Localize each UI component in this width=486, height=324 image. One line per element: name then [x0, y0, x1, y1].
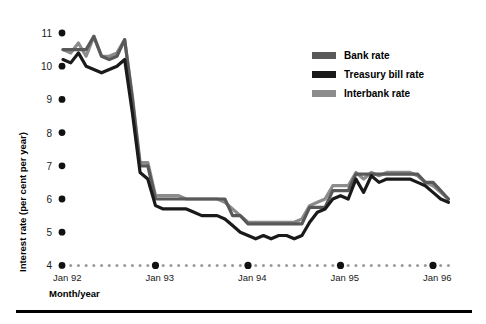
x-tick-dot-major [152, 262, 159, 269]
series-lines-group [63, 36, 448, 239]
y-tick-dot [59, 129, 66, 136]
x-tick-dot-minor [131, 264, 134, 267]
x-tick-dot-minor [354, 264, 357, 267]
y-axis-tick-markers [59, 30, 66, 269]
x-tick-dot-minor [231, 264, 234, 267]
x-tick-dot-minor [408, 264, 411, 267]
x-tick-dot-minor [439, 264, 442, 267]
x-tick-dot-minor [378, 264, 381, 267]
y-tick-dot [59, 96, 66, 103]
x-tick-dot-minor [262, 264, 265, 267]
bottom-divider-rule [16, 310, 472, 313]
x-tick-dot-minor [146, 264, 149, 267]
legend-swatch [312, 52, 336, 59]
x-tick-dot-minor [185, 264, 188, 267]
x-tick-dot-minor [331, 264, 334, 267]
y-tick-dot [59, 30, 66, 37]
x-tick-dot-minor [69, 264, 72, 267]
x-tick-dot-minor [193, 264, 196, 267]
y-tick-label: 5 [46, 227, 52, 238]
x-tick-dot-minor [308, 264, 311, 267]
x-tick-dot-minor [162, 264, 165, 267]
x-tick-dot-minor [100, 264, 103, 267]
x-tick-dot-minor [216, 264, 219, 267]
x-tick-label: Jan 94 [238, 272, 267, 283]
y-axis-tick-labels: 1110987654 [41, 28, 53, 271]
x-tick-dot-minor [277, 264, 280, 267]
x-tick-dot-minor [370, 264, 373, 267]
x-tick-dot-minor [239, 264, 242, 267]
y-tick-label: 9 [46, 94, 52, 105]
y-tick-label: 11 [42, 28, 53, 39]
chart-legend: Bank rateTreasury bill rateInterbank rat… [312, 50, 424, 99]
x-tick-dot-minor [169, 264, 172, 267]
x-axis-tick-markers [69, 262, 450, 269]
legend-swatch [312, 71, 336, 78]
y-tick-label: 7 [46, 161, 52, 172]
chart-figure: 1110987654 Jan 92Jan 93Jan 94Jan 95Jan 9… [0, 0, 486, 324]
x-tick-dot-minor [200, 264, 203, 267]
x-tick-dot-minor [347, 264, 350, 267]
y-tick-label: 6 [46, 194, 52, 205]
x-tick-dot-minor [385, 264, 388, 267]
x-tick-dot-minor [139, 264, 142, 267]
x-tick-label: Jan 95 [331, 272, 360, 283]
y-tick-dot [59, 162, 66, 169]
y-tick-dot [59, 196, 66, 203]
x-tick-dot-minor [177, 264, 180, 267]
x-tick-dot-minor [85, 264, 88, 267]
x-tick-dot-minor [401, 264, 404, 267]
x-tick-dot-minor [416, 264, 419, 267]
x-tick-dot-minor [393, 264, 396, 267]
x-tick-dot-minor [254, 264, 257, 267]
x-tick-dot-major [429, 262, 436, 269]
y-tick-dot [59, 229, 66, 236]
legend-label: Bank rate [344, 50, 390, 61]
y-tick-dot [59, 63, 66, 70]
x-tick-dot-minor [123, 264, 126, 267]
x-tick-dot-minor [115, 264, 118, 267]
x-tick-label: Jan 96 [423, 272, 452, 283]
x-tick-dot-minor [223, 264, 226, 267]
x-axis-tick-labels: Jan 92Jan 93Jan 94Jan 95Jan 96 [53, 272, 452, 283]
x-tick-dot-minor [108, 264, 111, 267]
x-tick-dot-minor [447, 264, 450, 267]
x-tick-dot-minor [293, 264, 296, 267]
x-tick-dot-minor [300, 264, 303, 267]
x-tick-dot-major [244, 262, 251, 269]
x-tick-dot-minor [77, 264, 80, 267]
legend-label: Interbank rate [344, 88, 411, 99]
y-tick-dot [59, 262, 66, 269]
y-tick-label: 4 [46, 260, 52, 271]
y-axis-title: Interest rate (per cent per year) [17, 132, 28, 272]
x-axis-title: Month/year [49, 288, 100, 299]
y-tick-label: 8 [46, 128, 52, 139]
x-tick-label: Jan 92 [53, 272, 82, 283]
interest-rate-line-chart: 1110987654 Jan 92Jan 93Jan 94Jan 95Jan 9… [0, 0, 486, 324]
x-tick-dot-minor [324, 264, 327, 267]
x-tick-dot-minor [424, 264, 427, 267]
x-tick-dot-minor [316, 264, 319, 267]
legend-swatch [312, 90, 336, 97]
x-tick-dot-minor [92, 264, 95, 267]
legend-label: Treasury bill rate [344, 69, 424, 80]
x-tick-dot-minor [208, 264, 211, 267]
x-tick-dot-minor [270, 264, 273, 267]
x-tick-dot-minor [362, 264, 365, 267]
y-tick-label: 10 [41, 61, 53, 72]
x-tick-dot-minor [285, 264, 288, 267]
series-line [63, 53, 448, 239]
x-tick-dot-major [337, 262, 344, 269]
x-tick-label: Jan 93 [146, 272, 175, 283]
